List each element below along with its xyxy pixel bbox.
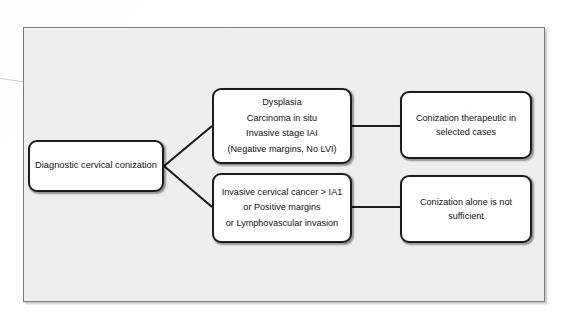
node-conization-therapeutic: Conization therapeutic in selected cases	[400, 91, 532, 159]
node-benign-line-1: Dysplasia	[214, 95, 350, 111]
node-benign-line-4: (Negative margins, No LVI)	[214, 142, 350, 158]
node-invasive-line-2: or Positive margins	[214, 200, 350, 216]
node-therapeutic-line-2: selected cases	[402, 125, 530, 139]
node-conization-not-sufficient: Conization alone is not sufficient	[400, 175, 532, 243]
node-start-line-1: Diagnostic cervical conization	[30, 158, 162, 174]
node-invasive-line-1: Invasive cervical cancer > IA1	[214, 185, 350, 201]
node-dysplasia-group: Dysplasia Carcinoma in situ Invasive sta…	[212, 88, 352, 164]
node-benign-line-2: Carcinoma in situ	[214, 111, 350, 127]
node-benign-line-3: Invasive stage IAI	[214, 126, 350, 142]
scanned-page: Diagnostic cervical conization Dysplasia…	[0, 0, 563, 316]
node-invasive-line-3: or Lymphovascular invasion	[214, 216, 350, 232]
node-invasive-cancer-group: Invasive cervical cancer > IA1 or Positi…	[212, 173, 352, 243]
node-insufficient-line-2: sufficient	[402, 209, 530, 223]
node-therapeutic-line-1: Conization therapeutic in	[402, 111, 530, 125]
node-diagnostic-cervical-conization: Diagnostic cervical conization	[28, 140, 164, 192]
node-insufficient-line-1: Conization alone is not	[402, 195, 530, 209]
